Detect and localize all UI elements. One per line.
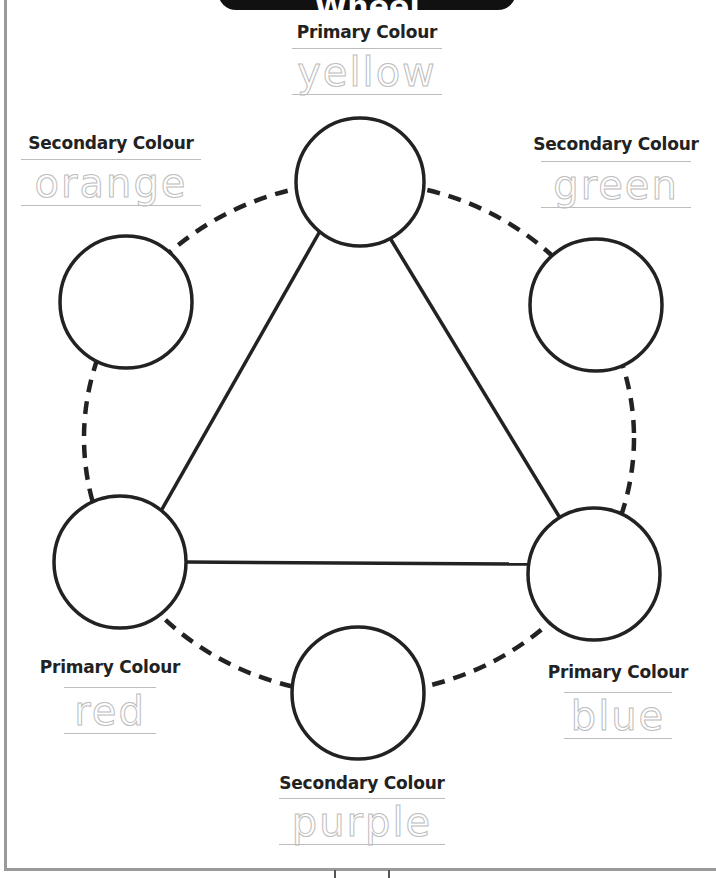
tracing-area: yellow xyxy=(292,46,442,100)
label-red: Primary Colour red xyxy=(32,657,188,739)
worksheet: The Colour Wheel Primary Colour yellow S… xyxy=(0,0,716,878)
label-purple: Secondary Colour purple xyxy=(272,773,452,856)
label-heading: Secondary Colour xyxy=(272,773,452,793)
colour-circle-green[interactable] xyxy=(530,239,662,371)
tracing-area: purple xyxy=(279,796,445,856)
tracing-word: green xyxy=(541,163,691,207)
label-heading: Primary Colour xyxy=(32,657,188,677)
tracing-word: blue xyxy=(564,694,672,738)
label-yellow: Primary Colour yellow xyxy=(282,22,452,100)
label-green: Secondary Colour green xyxy=(526,134,706,213)
colour-circle-red[interactable] xyxy=(54,496,186,628)
colour-wheel-diagram xyxy=(0,0,716,878)
tracing-word: purple xyxy=(279,800,445,844)
tracing-area: green xyxy=(541,159,691,213)
label-heading: Primary Colour xyxy=(540,662,696,682)
label-blue: Primary Colour blue xyxy=(540,662,696,744)
colour-circle-blue[interactable] xyxy=(528,508,660,640)
tracing-area: blue xyxy=(564,690,672,744)
label-heading: Primary Colour xyxy=(282,22,452,42)
tracing-word: red xyxy=(64,689,156,733)
colour-circle-purple[interactable] xyxy=(292,627,424,759)
tracing-word: yellow xyxy=(292,50,442,94)
label-heading: Secondary Colour xyxy=(18,133,204,153)
tracing-word: orange xyxy=(21,161,201,205)
tracing-area: orange xyxy=(21,157,201,211)
label-orange: Secondary Colour orange xyxy=(18,133,204,211)
tracing-area: red xyxy=(64,685,156,739)
label-heading: Secondary Colour xyxy=(526,134,706,154)
triangle-edge-bottom xyxy=(186,562,528,564)
colour-circle-yellow[interactable] xyxy=(296,118,424,246)
colour-circle-orange[interactable] xyxy=(60,236,192,368)
triangle-edge-left xyxy=(157,210,332,518)
